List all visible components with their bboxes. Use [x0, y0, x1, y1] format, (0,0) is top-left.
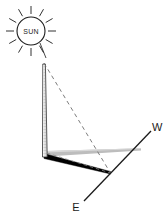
sun-ray-3	[46, 19, 53, 23]
sun-ray-12	[19, 9, 23, 16]
dashed-ray-to-pole-base	[47, 153, 111, 173]
sun-ray-9	[9, 40, 16, 44]
sun-group: SUN	[6, 6, 56, 58]
sun-ray-2	[40, 9, 44, 16]
diagram-canvas: SUN	[0, 0, 166, 217]
gnomon-group	[43, 64, 48, 157]
sun-ray-8	[19, 46, 23, 53]
sun-ray-13	[40, 43, 46, 58]
east-label: E	[72, 201, 79, 213]
cast-shadow	[44, 154, 111, 175]
sun-label: SUN	[23, 28, 38, 35]
cast-shadow-group	[44, 154, 111, 175]
ground-band-group	[46, 148, 141, 156]
east-west-axis-line	[84, 131, 151, 201]
west-label: W	[152, 121, 163, 133]
sun-ray-5	[46, 40, 53, 44]
sun-ray-11	[9, 19, 16, 23]
sun-shadow-diagram: SUN	[0, 0, 166, 217]
